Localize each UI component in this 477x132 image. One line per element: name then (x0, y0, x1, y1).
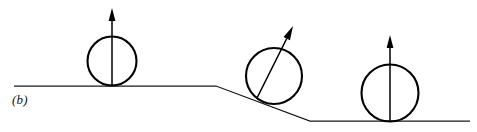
panel-label: (b) (12, 92, 28, 108)
diagram-canvas (0, 0, 477, 132)
figure-panel: (b) (0, 0, 477, 132)
vector-middle-arrowhead (284, 26, 293, 40)
vector-left-arrowhead (109, 8, 116, 21)
vector-right-arrowhead (387, 35, 394, 48)
ball-middle (246, 48, 302, 104)
ball-group-right (362, 35, 419, 122)
ground-line (14, 86, 470, 121)
ball-group-left (88, 8, 137, 86)
ball-group-middle (246, 26, 302, 104)
